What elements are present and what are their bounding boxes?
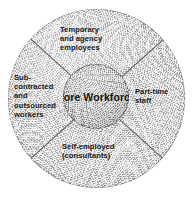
segment-label-line: Self-employed	[62, 142, 142, 151]
core-label-line-2: Workforce	[83, 91, 129, 103]
segment-label-line: and	[14, 91, 62, 100]
segment-label-line: Temporary	[60, 25, 138, 34]
core-label: Core Workforce	[63, 91, 129, 103]
segment-label-sub-contracted-and-outsourced-workers: Sub- contracted and outsourced workers	[14, 73, 62, 119]
segment-label-line: staff	[135, 96, 187, 105]
core-circle: Core Workforce	[63, 64, 129, 129]
segment-label-line: contracted	[14, 82, 62, 91]
segment-label-line: workers	[14, 110, 62, 119]
core-label-line-1: Core	[63, 91, 80, 103]
segment-label-line: employees	[60, 43, 138, 52]
segment-label-line: and agency	[60, 34, 138, 43]
segment-label-part-time-staff: Part-time staff	[135, 87, 187, 105]
segment-label-line: Sub-	[14, 73, 62, 82]
segment-label-temporary-and-agency-employees: Temporary and agency employees	[60, 25, 138, 53]
segment-label-line: Part-time	[135, 87, 187, 96]
segment-label-self-employed-consultants: Self-employed (consultants)	[62, 142, 142, 160]
segment-label-line: outsourced	[14, 101, 62, 110]
workforce-diagram: Core Workforce Temporary and agency empl…	[0, 0, 193, 202]
segment-label-line: (consultants)	[62, 151, 142, 160]
